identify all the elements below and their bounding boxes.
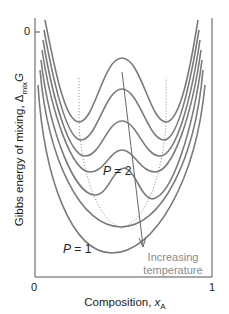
p1-annotation: P = 1 bbox=[63, 242, 91, 256]
y-axis-label: Gibbs energy of mixing, ΔmixG bbox=[13, 50, 28, 250]
arrow-label-line1: Increasing bbox=[128, 251, 218, 264]
temperature-arrow bbox=[122, 72, 143, 246]
increasing-temperature-label: Increasing temperature bbox=[128, 251, 218, 277]
curve-2 bbox=[44, 30, 199, 140]
curve-6 bbox=[40, 70, 203, 227]
y-tick-label-zero: 0 bbox=[24, 25, 30, 37]
curve-1 bbox=[45, 20, 198, 122]
x-tick-label-zero: 0 bbox=[31, 281, 37, 293]
x-tick-label-one: 1 bbox=[209, 281, 215, 293]
p2-annotation: P = 2 bbox=[103, 164, 131, 178]
curves bbox=[38, 20, 205, 253]
x-axis-label: Composition, xA bbox=[60, 296, 190, 311]
arrow-label-line2: temperature bbox=[128, 264, 218, 277]
